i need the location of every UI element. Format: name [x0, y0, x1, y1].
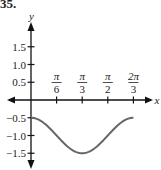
- y-tick-label: −1.0: [6, 130, 26, 142]
- x-tick-numerator: π: [54, 70, 60, 82]
- x-tick-label: π2: [103, 70, 113, 95]
- chart: xy 1.51.00.5−0.5−1.0−1.5π6π3π22π3: [0, 0, 161, 170]
- x-tick-denominator: 2: [105, 83, 111, 95]
- y-tick-label: 0.5: [12, 76, 26, 88]
- x-tick-denominator: 3: [79, 83, 85, 95]
- y-axis-label: y: [28, 10, 34, 22]
- x-tick-numerator: π: [105, 70, 111, 82]
- y-tick-label: −1.5: [6, 147, 26, 159]
- x-tick-denominator: 6: [54, 83, 60, 95]
- y-axis-down-arrow-icon: [28, 160, 35, 169]
- x-tick-denominator: 3: [131, 83, 137, 95]
- x-tick-numerator: 2π: [128, 70, 140, 82]
- y-tick-label: 1.0: [12, 59, 26, 71]
- x-tick-label: π3: [77, 70, 87, 95]
- y-tick-label: 1.5: [12, 41, 26, 53]
- x-tick-numerator: π: [79, 70, 85, 82]
- x-axis-right-arrow-icon: [145, 97, 153, 104]
- x-tick-label: π6: [52, 70, 62, 95]
- y-axis-up-arrow-icon: [28, 22, 35, 31]
- curve-line: [31, 118, 133, 154]
- x-axis-label: x: [154, 94, 160, 106]
- x-axis-left-arrow-icon: [7, 97, 15, 104]
- x-tick-label: 2π3: [128, 70, 140, 95]
- y-tick-label: −0.5: [6, 112, 26, 124]
